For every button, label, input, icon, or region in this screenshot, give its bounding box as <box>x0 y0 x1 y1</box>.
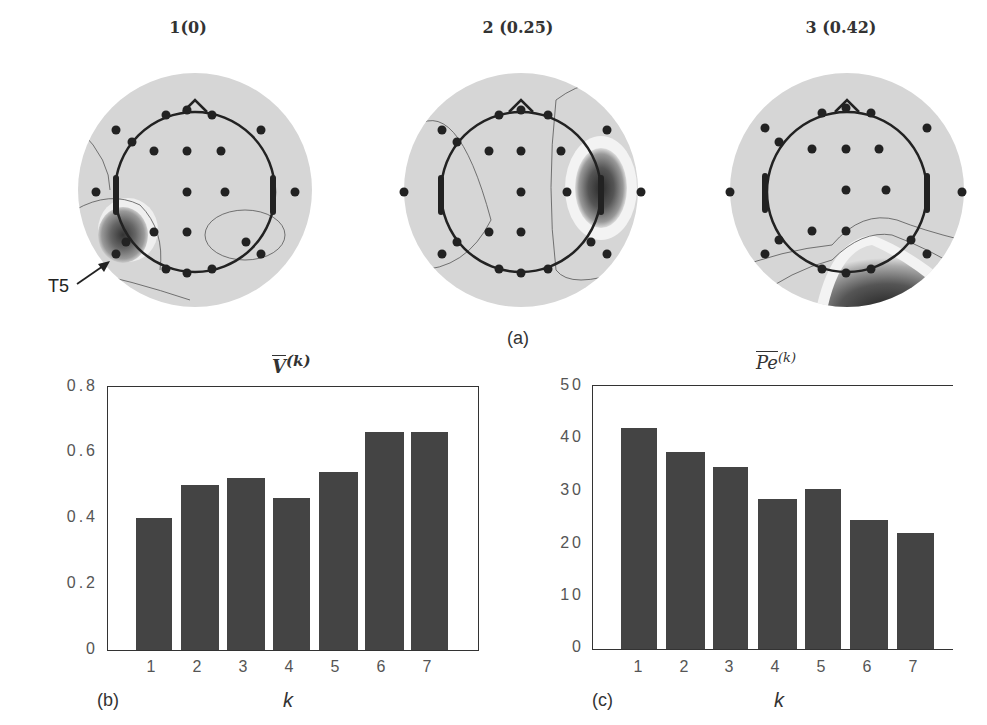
chart-c-xtick: 7 <box>903 658 923 676</box>
chart-b-ytick: 0.6 <box>54 442 98 460</box>
topomap-2 <box>396 70 646 310</box>
chart-c-xtick: 2 <box>674 658 694 676</box>
chart-c-xtick: 3 <box>719 658 739 676</box>
chart-c-ytick: 20 <box>540 534 584 552</box>
chart-c-xtick: 4 <box>765 658 785 676</box>
chart-b-ytick: 0.8 <box>54 377 98 395</box>
chart-b-ytick: 0 <box>54 640 98 658</box>
panel-b-label: (b) <box>97 690 119 711</box>
chart-b-xtick: 6 <box>371 658 391 676</box>
chart-b-bar-4 <box>273 498 310 650</box>
chart-b-xtick: 5 <box>325 658 345 676</box>
panel-c-label: (c) <box>592 690 613 711</box>
chart-c-xtick: 1 <box>628 658 648 676</box>
chart-c-bar-4 <box>758 499 797 649</box>
chart-b-bar-6 <box>365 432 404 650</box>
chart-c: Pe(k) 50 40 30 20 10 0 1 2 3 4 5 6 7 k (… <box>530 340 987 725</box>
chart-c-ytick: 30 <box>540 481 584 499</box>
topomap-3 <box>722 70 972 310</box>
chart-c-bar-5 <box>805 489 841 649</box>
chart-c-ytick: 10 <box>540 586 584 604</box>
chart-b-bar-2 <box>181 485 219 650</box>
chart-c-bar-2 <box>666 452 705 649</box>
chart-c-ytick: 0 <box>540 638 584 656</box>
chart-b-xtick: 2 <box>187 658 207 676</box>
chart-c-xlabel: k <box>774 689 784 712</box>
chart-c-bar-6 <box>850 520 888 649</box>
chart-c-bar-7 <box>897 533 934 649</box>
chart-b-bar-3 <box>227 478 265 650</box>
topomap-2-title: 2 (0.25) <box>418 18 618 37</box>
chart-b-bar-5 <box>319 472 358 650</box>
chart-b-ytick: 0.4 <box>54 508 98 526</box>
chart-b-xlabel: k <box>283 689 293 712</box>
chart-c-ytick: 40 <box>540 428 584 446</box>
chart-b-plot-area <box>107 386 479 651</box>
chart-b-bar-1 <box>136 518 172 650</box>
chart-b-title: V(k) <box>272 352 311 377</box>
topomap-3-title: 3 (0.42) <box>741 18 941 37</box>
chart-b-bar-7 <box>411 432 448 650</box>
chart-c-xtick: 5 <box>811 658 831 676</box>
chart-b-xtick: 4 <box>279 658 299 676</box>
chart-c-xtick: 6 <box>857 658 877 676</box>
chart-b-xtick: 1 <box>141 658 161 676</box>
topomap-1-title: 1(0) <box>88 18 288 37</box>
chart-c-plot-area <box>592 385 953 650</box>
chart-c-bar-3 <box>713 467 748 649</box>
chart-b-ytick: 0.2 <box>54 574 98 592</box>
chart-b-xtick: 7 <box>417 658 437 676</box>
chart-c-bar-1 <box>621 428 657 649</box>
chart-b-xtick: 3 <box>233 658 253 676</box>
chart-c-ytick: 50 <box>540 376 584 394</box>
t5-arrow-icon <box>74 258 114 288</box>
t5-annotation-label: T5 <box>48 276 69 297</box>
chart-c-title: Pe(k) <box>756 350 796 373</box>
panel-a-label: (a) <box>507 328 529 349</box>
chart-b: V(k) 0.8 0.6 0.4 0.2 0 1 2 3 4 5 6 7 k (… <box>60 340 480 725</box>
